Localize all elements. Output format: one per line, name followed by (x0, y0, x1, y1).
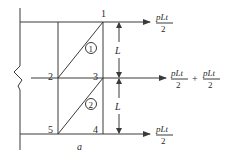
load-top-numerator: pLt (155, 12, 169, 22)
load-bottom-denominator: 2 (161, 136, 166, 146)
truss-diagram: 1 2 3 4 5 1 2 L L a pLt 2 pLt 2 + pLt 2 … (0, 0, 232, 154)
dim-label-lower-L: L (114, 101, 121, 112)
node-label-1: 1 (101, 8, 106, 19)
node-label-4: 4 (93, 124, 98, 135)
node-label-3: 3 (93, 71, 98, 82)
load-top-denominator: 2 (161, 24, 166, 34)
load-mid-term1-numerator: pLt (170, 68, 184, 78)
panel-label-1: 1 (89, 44, 94, 54)
node-label-5: 5 (48, 124, 53, 135)
load-mid-term2-numerator: pLt (202, 68, 216, 78)
load-mid-term1-denominator: 2 (176, 80, 181, 90)
load-mid-operator: + (192, 73, 198, 84)
wall-line (14, 8, 22, 150)
dim-label-width-a: a (77, 141, 82, 152)
panel-label-2: 2 (89, 100, 94, 110)
dim-label-upper-L: L (114, 45, 121, 56)
load-bottom-numerator: pLt (155, 124, 169, 134)
node-label-2: 2 (48, 71, 53, 82)
load-mid-term2-denominator: 2 (208, 80, 213, 90)
